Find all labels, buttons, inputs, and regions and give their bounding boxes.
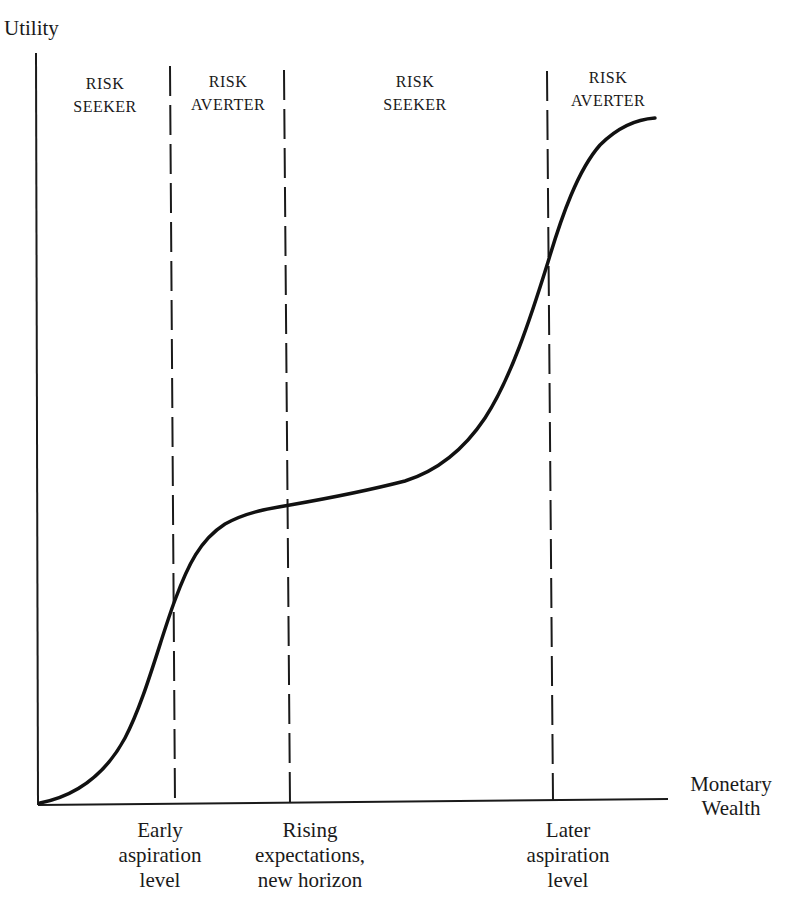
region-label-line: AVERTER — [552, 89, 664, 112]
marker-label-line: aspiration — [513, 843, 623, 868]
marker-label-line: Rising — [235, 818, 385, 843]
y-axis-label: Utility — [4, 16, 59, 40]
region-label-line: SEEKER — [40, 95, 170, 118]
marker-label-line: Early — [105, 818, 215, 843]
marker-label-rising-expectations: Rising expectations, new horizon — [235, 818, 385, 894]
region-label-line: SEEKER — [340, 93, 490, 116]
marker-label-later-aspiration: Later aspiration level — [513, 818, 623, 894]
y-axis — [36, 53, 38, 805]
marker-label-line: new horizon — [235, 868, 385, 893]
later-aspiration-dashed-line — [547, 71, 553, 800]
marker-label-early-aspiration: Early aspiration level — [105, 818, 215, 894]
marker-label-line: expectations, — [235, 843, 385, 868]
region-label-risk-seeker-2: RISK SEEKER — [340, 70, 490, 116]
x-axis — [38, 799, 668, 805]
region-label-risk-averter-1: RISK AVERTER — [172, 70, 284, 116]
region-label-line: RISK — [172, 70, 284, 93]
x-axis-label-line: Monetary — [670, 772, 792, 796]
region-label-line: RISK — [552, 66, 664, 89]
region-label-risk-averter-2: RISK AVERTER — [552, 66, 664, 112]
region-label-line: AVERTER — [172, 93, 284, 116]
region-label-line: RISK — [40, 72, 170, 95]
marker-label-line: Later — [513, 818, 623, 843]
marker-label-line: level — [513, 868, 623, 893]
early-aspiration-dashed-line — [170, 66, 175, 804]
region-label-line: RISK — [340, 70, 490, 93]
rising-expectations-dashed-line — [284, 70, 290, 803]
utility-curve — [40, 118, 655, 803]
marker-label-line: aspiration — [105, 843, 215, 868]
x-axis-label: Monetary Wealth — [670, 772, 792, 820]
marker-label-line: level — [105, 868, 215, 893]
region-label-risk-seeker-1: RISK SEEKER — [40, 72, 170, 118]
x-axis-label-line: Wealth — [670, 796, 792, 820]
